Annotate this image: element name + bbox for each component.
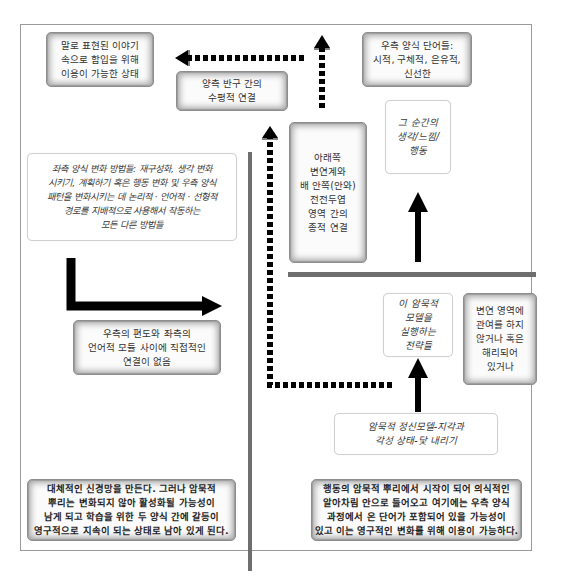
solid-elbow-arrow-icon xyxy=(71,258,222,316)
box-text: 우측 양식 단어들: 시적, 구체적, 은유적, 신선한 xyxy=(373,39,460,81)
dashed-up-arrow-icon xyxy=(314,35,330,108)
box-text: 아래쪽 변연계와 배 안쪽(안와) 전전두엽 영역 간의 종적 연결 xyxy=(300,151,356,235)
box-text: 양측 반구 간의 수평적 연결 xyxy=(202,77,262,105)
box-right-mode-words: 우측 양식 단어들: 시적, 구체적, 은유적, 신선한 xyxy=(362,32,472,87)
box-text: 대체적인 신경망을 만든다. 그러나 암묵적 뿌리는 변화되지 않아 활성화될 … xyxy=(34,482,228,538)
box-alternative-network: 대체적인 신경망을 만든다. 그러나 암묵적 뿌리는 변화되지 않아 활성화될 … xyxy=(27,479,236,541)
box-implicit-roots-action: 행동의 암묵적 뿌리에서 시작이 되어 의식적인 알아차림 안으로 들어오고 여… xyxy=(311,479,522,541)
box-implicit-mental-model: 암묵적 정신모델-지각과 각성 상태-닻 내리기 xyxy=(334,413,498,455)
box-no-direct-connection: 우측의 편도와 좌측의 언어적 모듈 사이에 직접적인 연결이 없음 xyxy=(73,320,221,375)
box-moment-thoughts: 그 순간의 생각/느낌/ 행동 xyxy=(385,100,451,174)
box-left-mode-methods: 좌측 양식 변화 방법들: 재구성화, 생각 변화 시키기, 계획하기 혹은 행… xyxy=(27,153,237,241)
box-text: 그 순간의 생각/느낌/ 행동 xyxy=(397,116,439,158)
box-text: 변연 영역에 관여를 하지 않거나 혹은 해리되어 있거나 xyxy=(476,304,524,374)
box-limbic-dissociated: 변연 영역에 관여를 하지 않거나 혹은 해리되어 있거나 xyxy=(463,293,537,385)
box-text: 우측의 편도와 좌측의 언어적 모듈 사이에 직접적인 연결이 없음 xyxy=(88,327,205,369)
solid-up-arrow-icon xyxy=(408,192,428,262)
box-text: 암묵적 정신모델-지각과 각성 상태-닻 내리기 xyxy=(368,420,465,448)
box-horizontal-connection: 양측 반구 간의 수평적 연결 xyxy=(176,71,288,111)
box-verbal-story-state: 말로 표현된 이야기 속으로 함입을 위해 이용이 가능한 상태 xyxy=(46,32,154,87)
box-text: 좌측 양식 변화 방법들: 재구성화, 생각 변화 시키기, 계획하기 혹은 행… xyxy=(47,162,217,232)
box-strategies: 이 암묵적 모델을 실행하는 전략들 xyxy=(383,293,453,357)
box-vertical-connection: 아래쪽 변연계와 배 안쪽(안와) 전전두엽 영역 간의 종적 연결 xyxy=(289,122,367,263)
box-text: 이 암묵적 모델을 실행하는 전략들 xyxy=(398,297,437,353)
box-text: 말로 표현된 이야기 속으로 함입을 위해 이용이 가능한 상태 xyxy=(61,39,139,81)
dashed-left-arrow-icon xyxy=(175,50,304,66)
solid-up-arrow-icon xyxy=(408,358,428,412)
box-text: 행동의 암묵적 뿌리에서 시작이 되어 의식적인 알아차림 안으로 들어오고 여… xyxy=(315,482,518,538)
